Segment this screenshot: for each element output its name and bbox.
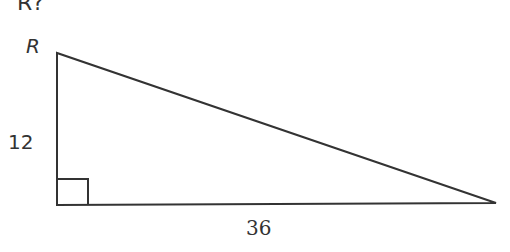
right-angle-marker <box>57 179 88 205</box>
triangle-figure <box>0 0 510 252</box>
vertex-label-r: R <box>26 36 40 56</box>
side-label-horizontal: 36 <box>246 218 271 238</box>
side-label-vertical: 12 <box>8 132 33 152</box>
triangle-outline <box>57 53 496 205</box>
